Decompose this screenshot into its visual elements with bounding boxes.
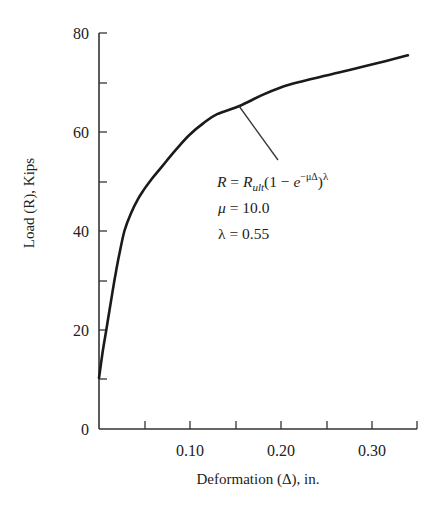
lambda-value-text: λ = 0.55 bbox=[218, 225, 269, 242]
y-tick-label-80: 80 bbox=[73, 25, 89, 42]
annotation-leader-line bbox=[239, 106, 278, 160]
x-tick-label-0.30: 0.30 bbox=[358, 442, 386, 459]
formula-text: R = Rult(1 − e−μΔ)λ bbox=[216, 170, 329, 193]
y-tick-label-40: 40 bbox=[73, 223, 89, 240]
y-tick-label-0: 0 bbox=[81, 421, 89, 438]
mu-value-text: μ = 10.0 bbox=[217, 199, 270, 216]
load-deformation-curve bbox=[99, 55, 408, 378]
y-tick-label-60: 60 bbox=[73, 124, 89, 141]
x-tick-label-0.20: 0.20 bbox=[267, 442, 295, 459]
y-tick-label-20: 20 bbox=[73, 322, 89, 339]
x-axis-title: Deformation (Δ), in. bbox=[197, 471, 320, 488]
y-axis-title: Load (R), Kips bbox=[21, 158, 38, 249]
x-tick-labels: 0.10 0.20 0.30 bbox=[176, 442, 386, 459]
x-ticks bbox=[145, 421, 417, 429]
formula-annotation: R = Rult(1 − e−μΔ)λ μ = 10.0 λ = 0.55 bbox=[216, 170, 329, 242]
load-deformation-chart: 80 60 40 20 0 0.10 0.20 0.30 Deformation… bbox=[0, 0, 441, 512]
x-tick-label-0.10: 0.10 bbox=[176, 442, 204, 459]
y-tick-labels: 80 60 40 20 0 bbox=[73, 25, 89, 438]
